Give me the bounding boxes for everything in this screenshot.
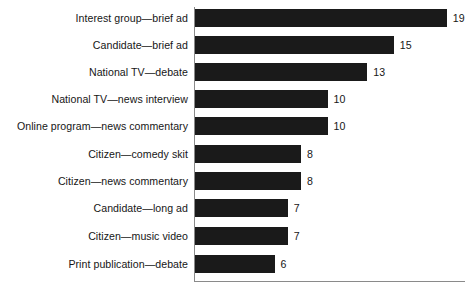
bar	[195, 9, 447, 27]
value-label: 15	[400, 36, 412, 54]
category-label: Interest group—brief ad	[76, 9, 188, 27]
bar-row: Candidate—brief ad 15	[0, 36, 474, 54]
category-label: Candidate—brief ad	[93, 36, 188, 54]
value-label: 7	[294, 227, 300, 245]
bar	[195, 36, 394, 54]
bar-row: Interest group—brief ad 19	[0, 9, 474, 27]
bar-row: National TV—debate 13	[0, 63, 474, 81]
value-label: 10	[334, 117, 346, 135]
bar-chart-figure: Interest group—brief ad 19 Candidate—bri…	[0, 0, 474, 295]
bar	[195, 117, 328, 135]
category-label: Citizen—comedy skit	[88, 145, 188, 163]
bar-row: Print publication—debate 6	[0, 255, 474, 273]
value-label: 8	[307, 145, 313, 163]
bar-row: Online program—news commentary 10	[0, 117, 474, 135]
value-label: 8	[307, 172, 313, 190]
bar-row: Citizen—news commentary 8	[0, 172, 474, 190]
bar	[195, 63, 367, 81]
category-label: Print publication—debate	[68, 255, 188, 273]
value-label: 19	[453, 9, 465, 27]
category-label: Online program—news commentary	[17, 117, 188, 135]
bar-row: Citizen—comedy skit 8	[0, 145, 474, 163]
category-label: National TV—debate	[89, 63, 188, 81]
value-label: 6	[281, 255, 287, 273]
category-label: Citizen—music video	[88, 227, 188, 245]
category-label: Citizen—news commentary	[58, 172, 188, 190]
bar	[195, 199, 288, 217]
value-label: 13	[373, 63, 385, 81]
bar-row: National TV—news interview 10	[0, 90, 474, 108]
bar-row: Citizen—music video 7	[0, 227, 474, 245]
plot-area: Interest group—brief ad 19 Candidate—bri…	[0, 0, 474, 295]
bar	[195, 255, 275, 273]
bar	[195, 90, 328, 108]
value-label: 7	[294, 199, 300, 217]
bar-row: Candidate—long ad 7	[0, 199, 474, 217]
value-label: 10	[334, 90, 346, 108]
bar	[195, 172, 301, 190]
bar-rows: Interest group—brief ad 19 Candidate—bri…	[0, 0, 474, 295]
bar	[195, 145, 301, 163]
category-label: Candidate—long ad	[94, 199, 189, 217]
bar	[195, 227, 288, 245]
category-label: National TV—news interview	[51, 90, 188, 108]
